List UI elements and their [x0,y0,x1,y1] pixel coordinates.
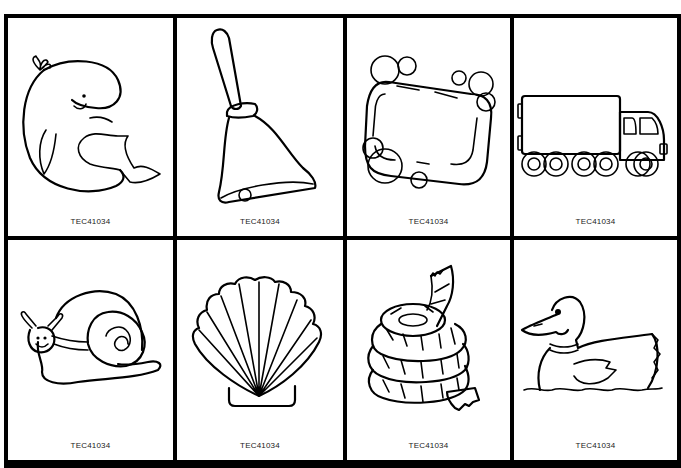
bell-icon [177,18,343,212]
card-code: TEC41034 [177,441,343,450]
picture-card-sheet: TEC41034 TEC41034 TEC41034 [4,14,681,468]
card-code: TEC41034 [8,441,173,450]
card-code: TEC41034 [347,217,510,226]
card-code: TEC41034 [177,217,343,226]
picture-card-rope: TEC41034 [347,240,510,460]
picture-card-truck: TEC41034 [514,18,677,236]
card-code: TEC41034 [514,217,677,226]
picture-card-duck: TEC41034 [514,240,677,460]
truck-icon [514,18,677,212]
picture-card-soap: TEC41034 [347,18,510,236]
card-code: TEC41034 [514,441,677,450]
card-code: TEC41034 [347,441,510,450]
soap-icon [347,18,510,212]
picture-card-whale: TEC41034 [8,18,173,236]
whale-icon [8,18,173,212]
rope-icon [347,240,510,436]
snail-icon [8,240,173,436]
picture-card-seashell: TEC41034 [177,240,343,460]
card-code: TEC41034 [8,217,173,226]
picture-card-snail: TEC41034 [8,240,173,460]
picture-card-bell: TEC41034 [177,18,343,236]
seashell-icon [177,240,343,436]
duck-icon [514,240,677,436]
